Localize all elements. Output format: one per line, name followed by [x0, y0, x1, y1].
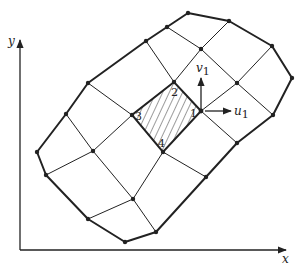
- node-label-3: 3: [135, 110, 142, 123]
- node-label-4: 4: [158, 137, 165, 150]
- finite-element-mesh-diagram: y x 1 2 3: [0, 0, 303, 271]
- axes: y x: [7, 34, 289, 266]
- node-label-1: 1: [190, 107, 197, 120]
- v1-label: v1: [196, 61, 210, 78]
- node-label-2: 2: [171, 86, 178, 99]
- y-axis-label: y: [7, 34, 15, 48]
- displacement-vectors: v1 u1: [196, 61, 249, 121]
- x-axis-label: x: [282, 252, 289, 266]
- u1-label: u1: [234, 104, 249, 121]
